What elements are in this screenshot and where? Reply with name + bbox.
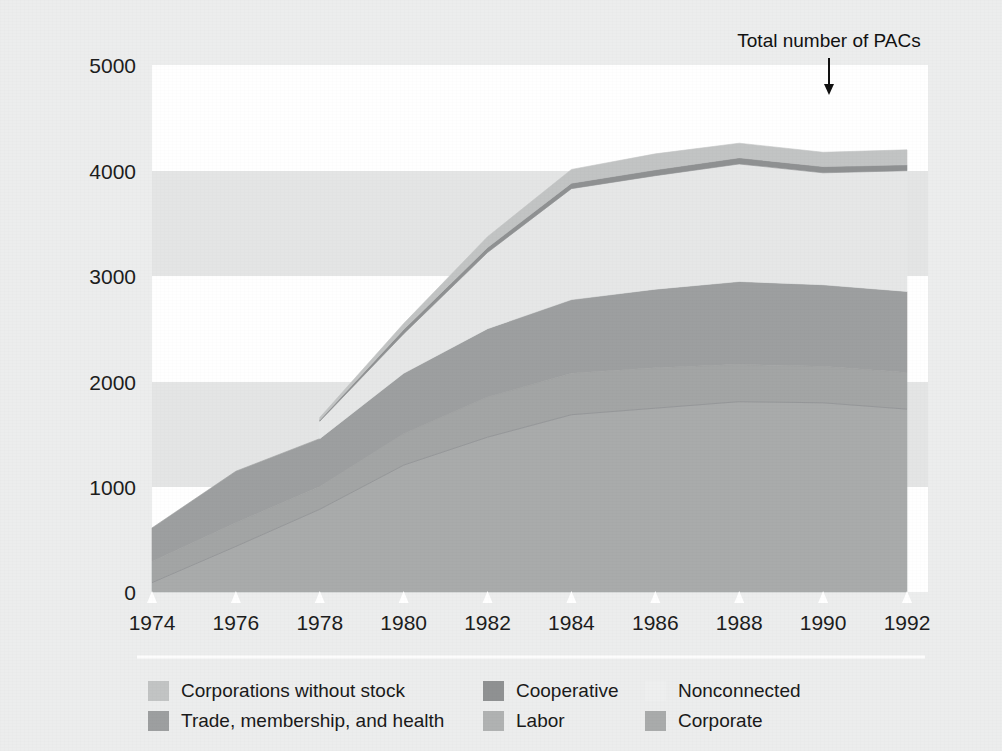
x-tick-label: 1988 <box>716 611 763 634</box>
legend-label: Labor <box>516 710 565 731</box>
swatch-corporations-without-stock <box>148 681 169 701</box>
legend-label: Corporations without stock <box>181 680 405 701</box>
x-tick-mark <box>734 591 744 603</box>
x-tick-label: 1984 <box>548 611 595 634</box>
x-axis: 1974197619781980198219841986198819901992 <box>129 591 931 634</box>
x-tick-mark <box>399 591 409 603</box>
x-tick-label: 1990 <box>800 611 847 634</box>
stacked-area-chart: 5000 4000 3000 2000 1000 0 1974197619781… <box>0 0 1002 751</box>
y-tick-label: 5000 <box>89 54 136 77</box>
y-tick-label: 4000 <box>89 160 136 183</box>
x-tick-label: 1976 <box>213 611 260 634</box>
legend-label: Nonconnected <box>678 680 801 701</box>
legend-label: Corporate <box>678 710 763 731</box>
x-tick-mark <box>231 591 241 603</box>
swatch-nonconnected <box>645 681 666 701</box>
swatch-corporate <box>645 711 666 731</box>
x-tick-label: 1982 <box>464 611 511 634</box>
legend-label: Trade, membership, and health <box>181 710 444 731</box>
legend-label: Cooperative <box>516 680 618 701</box>
swatch-cooperative <box>483 681 504 701</box>
x-tick-mark <box>902 591 912 603</box>
legend-item: Trade, membership, and health <box>148 710 444 731</box>
legend-item: Labor <box>483 710 565 731</box>
x-tick-mark <box>315 591 325 603</box>
legend-item: Nonconnected <box>645 680 801 701</box>
y-tick-label: 2000 <box>89 371 136 394</box>
legend-item: Cooperative <box>483 680 618 701</box>
annotation-label: Total number of PACs <box>737 30 920 51</box>
x-tick-label: 1992 <box>884 611 931 634</box>
y-axis: 5000 4000 3000 2000 1000 0 <box>89 54 136 604</box>
x-tick-mark <box>483 591 493 603</box>
y-tick-label: 0 <box>124 581 136 604</box>
y-tick-label: 3000 <box>89 265 136 288</box>
x-tick-label: 1974 <box>129 611 176 634</box>
figure-root: 5000 4000 3000 2000 1000 0 1974197619781… <box>0 0 1002 751</box>
x-tick-mark <box>147 591 157 603</box>
x-tick-label: 1980 <box>380 611 427 634</box>
x-tick-label: 1986 <box>632 611 679 634</box>
y-tick-label: 1000 <box>89 476 136 499</box>
legend: Corporations without stockCooperativeNon… <box>148 680 801 731</box>
x-tick-mark <box>650 591 660 603</box>
x-tick-mark <box>818 591 828 603</box>
x-tick-label: 1978 <box>296 611 343 634</box>
x-tick-mark <box>566 591 576 603</box>
swatch-labor <box>483 711 504 731</box>
swatch-trade-membership-health <box>148 711 169 731</box>
legend-item: Corporate <box>645 710 763 731</box>
legend-item: Corporations without stock <box>148 680 405 701</box>
